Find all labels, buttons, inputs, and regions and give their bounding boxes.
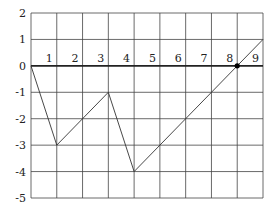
x-axis-labels: 123456789 bbox=[46, 52, 259, 65]
x-tick-label: 8 bbox=[226, 52, 233, 65]
x-tick-label: 7 bbox=[200, 52, 207, 65]
y-tick-label: -1 bbox=[15, 86, 26, 99]
x-tick-label: 4 bbox=[123, 52, 130, 65]
x-tick-label: 2 bbox=[72, 52, 79, 65]
marked-point bbox=[235, 63, 240, 68]
y-tick-label: 2 bbox=[19, 7, 26, 20]
y-axis-labels: 210-1-2-3-4-5 bbox=[15, 7, 26, 205]
x-tick-label: 1 bbox=[46, 52, 53, 65]
x-tick-label: 6 bbox=[175, 52, 182, 65]
y-tick-label: -3 bbox=[15, 139, 26, 152]
grid bbox=[31, 13, 263, 198]
line-plot: 210-1-2-3-4-5 123456789 bbox=[0, 0, 278, 214]
y-tick-label: 0 bbox=[19, 60, 26, 73]
y-tick-label: 1 bbox=[19, 33, 26, 46]
x-tick-label: 5 bbox=[149, 52, 156, 65]
y-tick-label: -2 bbox=[15, 113, 26, 126]
x-tick-label: 3 bbox=[97, 52, 104, 65]
y-tick-label: -4 bbox=[15, 166, 26, 179]
x-tick-label: 9 bbox=[252, 52, 259, 65]
y-tick-label: -5 bbox=[15, 192, 26, 205]
